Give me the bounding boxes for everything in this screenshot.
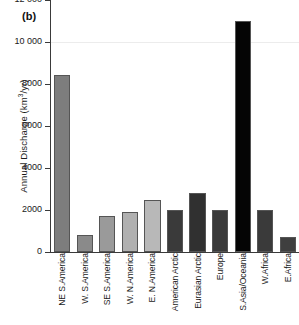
x-axis-label-slot: E.Africa [276, 253, 299, 325]
x-axis-label: E.Africa [283, 253, 293, 282]
x-axis-label: Europe [215, 253, 225, 280]
bar-series [51, 0, 299, 252]
x-axis-label-slot: Eurasian Arctic [186, 253, 209, 325]
x-axis-label: NE S.America [57, 253, 67, 306]
bar [122, 212, 138, 252]
x-axis-category-labels: NE S.AmericaW. S.AmericaSE S.AmericaW. N… [50, 253, 299, 325]
y-axis-tick-label: 8000 [0, 78, 42, 88]
x-axis-label-slot: SE S.America [96, 253, 119, 325]
bar [167, 210, 183, 252]
bar [144, 200, 160, 253]
x-axis-label-slot: W.Africa [254, 253, 277, 325]
y-axis-title-prefix: Annual Discharge (km [18, 97, 29, 192]
bar [235, 21, 251, 252]
bar [280, 237, 296, 252]
bar [212, 210, 228, 252]
y-axis-tick-label: 4000 [0, 162, 42, 172]
x-axis-label: W. N.America [125, 253, 135, 304]
x-axis-label-slot: NE S.America [51, 253, 74, 325]
x-axis-label: E. N.America [147, 253, 157, 302]
x-axis-label-slot: E. N.America [141, 253, 164, 325]
y-axis-tick-label: 12 000 [0, 0, 42, 4]
bar [99, 216, 115, 252]
chart-figure: Annual Discharge (km3/yr) 02000400060008… [0, 0, 299, 325]
bar [189, 193, 205, 252]
x-axis-label: SE S.America [102, 253, 112, 305]
y-axis-tick-label: 2000 [0, 204, 42, 214]
bar [77, 235, 93, 252]
x-axis-label-slot: W. N.America [119, 253, 142, 325]
x-axis-label-slot: W. S.America [74, 253, 97, 325]
x-axis-label-slot: S.Asia/Oceania [231, 253, 254, 325]
x-axis-label: Eurasian Arctic [193, 253, 203, 309]
y-axis-title: Annual Discharge (km3/yr) [17, 51, 29, 221]
bar [54, 75, 70, 252]
panel-label: (b) [22, 10, 36, 22]
x-axis-label-slot: American Arctic [164, 253, 187, 325]
y-axis-tick-label: 10 000 [0, 36, 42, 46]
x-axis-label: S.Asia/Oceania [238, 253, 248, 311]
y-axis-title-superscript: 3 [17, 94, 24, 98]
x-axis-label: W.Africa [260, 253, 270, 284]
x-axis-label: W. S.America [80, 253, 90, 304]
plot-area: 0200040006000800010 00012 000 [50, 0, 299, 253]
x-axis-label: American Arctic [170, 253, 180, 311]
x-axis-label-slot: Europe [209, 253, 232, 325]
y-axis-tick-label: 0 [0, 246, 42, 256]
y-axis-tick-label: 6000 [0, 120, 42, 130]
bar [257, 210, 273, 252]
